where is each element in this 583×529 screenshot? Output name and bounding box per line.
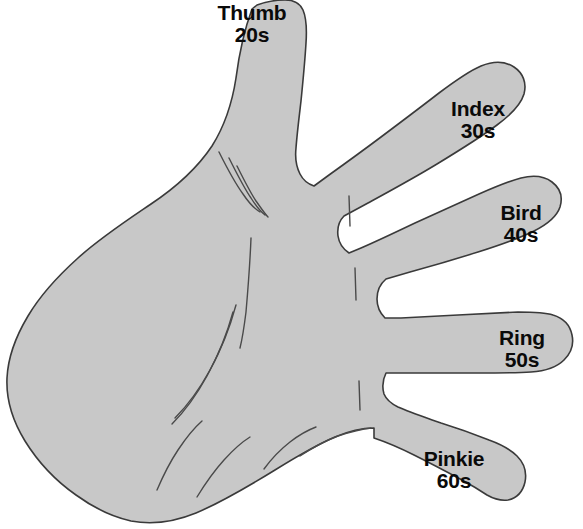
hand-diagram: Thumb 20s Index 30s Bird 40s Ring 50s Pi… xyxy=(0,0,583,529)
finger-label-ring: Ring 50s xyxy=(479,327,565,371)
finger-label-pinkie: Pinkie 60s xyxy=(404,448,504,492)
finger-time-index: 30s xyxy=(430,120,526,142)
finger-name-thumb: Thumb xyxy=(198,2,306,24)
finger-name-ring: Ring xyxy=(479,327,565,349)
finger-label-bird: Bird 40s xyxy=(478,202,564,246)
finger-name-pinkie: Pinkie xyxy=(404,448,504,470)
finger-label-thumb: Thumb 20s xyxy=(198,2,306,46)
finger-name-index: Index xyxy=(430,98,526,120)
finger-time-ring: 50s xyxy=(479,349,565,371)
finger-label-index: Index 30s xyxy=(430,98,526,142)
finger-time-thumb: 20s xyxy=(198,24,306,46)
hand-silhouette xyxy=(7,0,573,523)
ring-finger-web-tick xyxy=(359,381,360,410)
bird-finger-web-tick xyxy=(355,268,356,300)
finger-name-bird: Bird xyxy=(478,202,564,224)
finger-time-pinkie: 60s xyxy=(404,470,504,492)
finger-time-bird: 40s xyxy=(478,224,564,246)
index-finger-web-tick xyxy=(349,196,350,226)
